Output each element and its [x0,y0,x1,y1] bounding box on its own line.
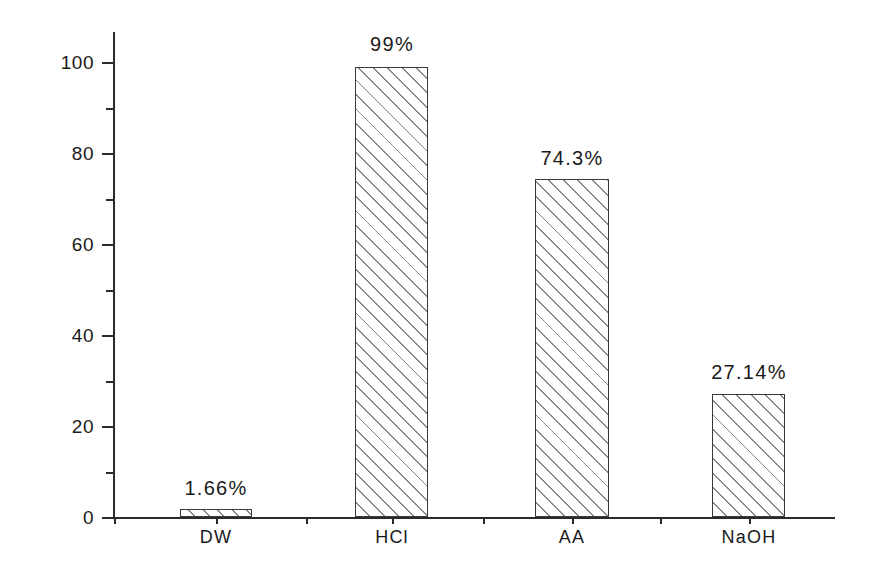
y-tick-major-60 [102,244,113,246]
y-tick-minor-90 [106,108,113,110]
y-tick-minor-10 [106,472,113,474]
bar-value-label-dw: 1.66% [156,478,276,498]
y-tick-label-100: 100 [50,53,94,72]
bar-value-label-hcl: 99% [332,34,452,54]
y-tick-major-40 [102,335,113,337]
y-tick-label-20: 20 [50,417,94,436]
bar-naoh[interactable] [712,394,785,517]
x-axis-label-aa: AA [512,528,632,546]
y-tick-label-wrap-40: 40 [48,326,94,345]
bar-dw[interactable] [180,509,252,517]
y-tick-minor-30 [106,381,113,383]
y-tick-minor-50 [106,290,113,292]
y-tick-label-wrap-60: 60 [48,235,94,254]
y-tick-label-60: 60 [50,235,94,254]
y-tick-label-0: 0 [50,508,94,527]
y-tick-minor-70 [106,199,113,201]
y-axis-line [113,32,115,519]
y-tick-major-80 [102,153,113,155]
y-tick-major-20 [102,426,113,428]
y-tick-label-wrap-0: 0 [48,508,94,527]
x-tick-minor-1 [216,519,218,524]
x-tick-minor-4 [483,519,485,524]
y-tick-label-80: 80 [50,144,94,163]
y-tick-label-40: 40 [50,326,94,345]
bar-hcl[interactable] [355,67,428,517]
x-axis-line [113,517,835,519]
y-tick-label-wrap-20: 20 [48,417,94,436]
y-tick-label-wrap-80: 80 [48,144,94,163]
y-tick-major-100 [102,62,113,64]
bar-value-label-aa: 74.3% [512,148,632,168]
x-tick-minor-7 [749,519,751,524]
desorption-ratio-bar-chart: Desorption ratio(%) 0 20 40 60 80 100 [0,0,873,566]
x-axis-label-naoh: NaOH [689,528,809,546]
x-tick-minor-5 [572,519,574,524]
x-axis-label-dw: DW [156,528,276,546]
x-tick-minor-6 [660,519,662,524]
bar-aa[interactable] [535,179,609,517]
plot-area: 0 20 40 60 80 100 [0,0,873,566]
x-tick-minor-2 [306,519,308,524]
x-tick-minor-0 [114,519,116,524]
x-tick-minor-3 [392,519,394,524]
y-tick-major-0 [102,517,113,519]
bar-value-label-naoh: 27.14% [689,362,809,382]
y-tick-label-wrap-100: 100 [48,53,94,72]
x-axis-label-hcl: HCl [332,528,452,546]
